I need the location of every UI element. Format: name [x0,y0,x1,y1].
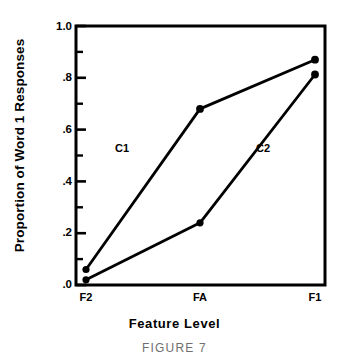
x-tick-label-f2: F2 [66,291,106,303]
plot-frame [76,26,325,285]
series-annotation-c1: C1 [115,142,129,154]
series-line-c1 [86,60,315,270]
y-tick-label-0.6: .6 [34,123,72,135]
series-annotation-c2: C2 [256,142,270,154]
x-axis-title: Feature Level [0,316,349,331]
x-tick-label-fa: FA [180,291,220,303]
y-tick-label-1.0: 1.0 [34,20,72,32]
figure-caption: FIGURE 7 [0,341,349,352]
y-tick-label-0.0: .0 [34,278,72,290]
series-markers-c2 [82,71,319,284]
y-tick-label-0.4: .4 [34,175,72,187]
series-markers-c1 [82,56,319,273]
y-tick-label-0.8: .8 [34,71,72,83]
y-tick-label-0.2: .2 [34,226,72,238]
x-tick-label-f1: F1 [295,291,335,303]
figure-container: Proportion of Word 1 Responses [0,0,349,352]
